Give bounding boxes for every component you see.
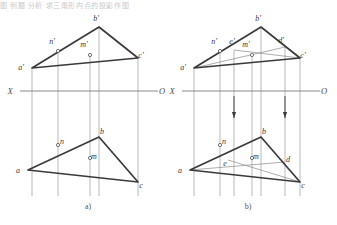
label-a-prime: a': [18, 63, 24, 72]
label-c-prime: c': [138, 51, 144, 60]
label-n-point: n: [60, 137, 64, 146]
triangle-lower-projection: [28, 137, 138, 182]
label-b-prime: b': [93, 14, 99, 23]
label-m-point: m: [253, 152, 259, 161]
diagram-a: XOa'b'c'n'm'abcnm: [6, 14, 165, 196]
label-n-prime: n': [49, 37, 55, 46]
point-marker-n-prime: [56, 49, 59, 52]
label-c-point: c: [301, 181, 305, 190]
aux-upper-a-to-d: [194, 47, 285, 68]
label-m-prime: m': [80, 40, 88, 49]
label-a-point: a: [178, 166, 182, 175]
label-e-point: e: [223, 159, 227, 168]
label-a-point: a: [16, 166, 20, 175]
axis-label-o: O: [321, 86, 327, 96]
label-d-prime: d': [278, 36, 284, 45]
label-b-point: b: [100, 127, 104, 136]
label-m-prime: m': [242, 40, 250, 49]
axis-label-o: O: [159, 86, 165, 96]
label-n-prime: n': [211, 37, 217, 46]
label-e-prime: e': [229, 37, 235, 46]
diagram-b: XOa'b'c'n'e'm'd'abcnemd: [168, 14, 327, 196]
point-marker-m-prime: [250, 53, 253, 56]
projection-figure-canvas: XOa'b'c'n'm'abcnmXOa'b'c'n'e'm'd'abcnemd…: [0, 0, 337, 225]
label-m-point: m: [91, 152, 97, 161]
figure-root: XOa'b'c'n'm'abcnmXOa'b'c'n'e'm'd'abcnemd…: [0, 0, 337, 225]
label-n-point: n: [222, 137, 226, 146]
label-b-point: b: [262, 127, 266, 136]
arrow-down-e-head: [232, 112, 236, 118]
axis-label-x: X: [6, 86, 13, 96]
caption-b: b): [245, 202, 252, 211]
label-d-point: d: [286, 155, 291, 164]
arrow-down-d-head: [283, 112, 287, 118]
triangle-lower-projection: [190, 137, 300, 182]
label-c-prime: c': [300, 51, 306, 60]
label-b-prime: b': [255, 14, 261, 23]
label-c-point: c: [139, 181, 143, 190]
label-a-prime: a': [180, 63, 186, 72]
point-marker-m-prime: [88, 53, 91, 56]
axis-label-x: X: [168, 86, 175, 96]
point-marker-n-prime: [218, 49, 221, 52]
caption-a: a): [85, 202, 92, 211]
